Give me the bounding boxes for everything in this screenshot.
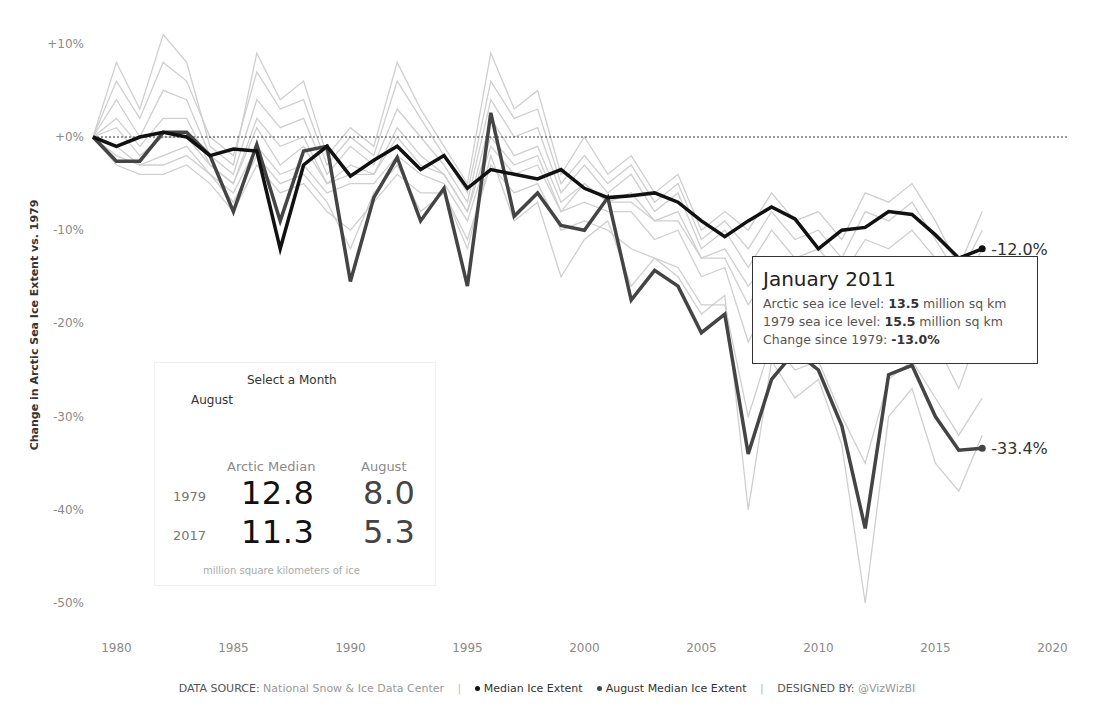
- tooltip-change: Change since 1979: -13.0%: [763, 331, 1027, 349]
- y-tick-label: -20%: [53, 316, 84, 330]
- tooltip-title: January 2011: [763, 267, 1027, 291]
- august-end-label: -33.4%: [991, 439, 1048, 458]
- y-tick-label: -40%: [53, 503, 84, 517]
- value-1979-median: 12.8: [241, 474, 314, 512]
- svg-text:Change in Arctic Sea Ice Exten: Change in Arctic Sea Ice Extent vs. 1979: [28, 200, 41, 451]
- designed-by-value[interactable]: @VizWizBI: [858, 682, 915, 695]
- x-tick-label: 1980: [101, 641, 132, 655]
- col-header-month: August: [361, 459, 407, 474]
- units-note: million square kilometers of ice: [203, 565, 360, 576]
- row-year-1979: 1979: [173, 489, 206, 504]
- x-tick-label: 2020: [1037, 641, 1068, 655]
- y-axis-ticks: +10%+0%-10%-20%-30%-40%-50%: [47, 37, 84, 610]
- tooltip-1979-level: 1979 sea ice level: 15.5 million sq km: [763, 313, 1027, 331]
- end-point-marker[interactable]: [979, 445, 986, 452]
- y-tick-label: -50%: [53, 596, 84, 610]
- designed-by-label: DESIGNED BY:: [777, 682, 854, 695]
- x-tick-label: 1985: [218, 641, 249, 655]
- other-month-line[interactable]: [93, 62, 982, 276]
- x-tick-label: 2005: [686, 641, 717, 655]
- y-tick-label: -10%: [53, 223, 84, 237]
- separator: |: [760, 682, 764, 695]
- month-dropdown[interactable]: August: [191, 393, 233, 407]
- legend-august-dot-icon: [597, 686, 602, 691]
- source-label: DATA SOURCE:: [179, 682, 260, 695]
- hover-tooltip: January 2011 Arctic sea ice level: 13.5 …: [752, 256, 1038, 364]
- x-tick-label: 1990: [335, 641, 366, 655]
- legend-august[interactable]: August Median Ice Extent: [606, 682, 747, 695]
- panel-title: Select a Month: [247, 373, 337, 387]
- end-point-marker[interactable]: [979, 245, 986, 252]
- col-header-arctic-median: Arctic Median: [227, 459, 315, 474]
- legend-median[interactable]: Median Ice Extent: [484, 682, 583, 695]
- x-tick-label: 2015: [920, 641, 951, 655]
- legend-median-dot-icon: [475, 686, 480, 691]
- x-tick-label: 1995: [452, 641, 483, 655]
- y-tick-label: +10%: [47, 37, 84, 51]
- y-tick-label: -30%: [53, 410, 84, 424]
- value-1979-month: 8.0: [363, 474, 415, 512]
- x-tick-label: 2000: [569, 641, 600, 655]
- y-tick-label: +0%: [55, 130, 84, 144]
- x-tick-label: 2010: [803, 641, 834, 655]
- value-2017-month: 5.3: [363, 513, 415, 551]
- source-value: National Snow & Ice Data Center: [263, 682, 444, 695]
- value-2017-median: 11.3: [241, 513, 314, 551]
- tooltip-arctic-level: Arctic sea ice level: 13.5 million sq km: [763, 295, 1027, 313]
- y-axis-title: Change in Arctic Sea Ice Extent vs. 1979: [28, 200, 41, 451]
- row-year-2017: 2017: [173, 528, 206, 543]
- separator: |: [458, 682, 462, 695]
- x-axis-ticks: 198019851990199520002005201020152020: [101, 641, 1068, 655]
- footer: DATA SOURCE: National Snow & Ice Data Ce…: [0, 682, 1094, 695]
- month-selector-panel: Select a Month August Arctic Median Augu…: [154, 362, 436, 586]
